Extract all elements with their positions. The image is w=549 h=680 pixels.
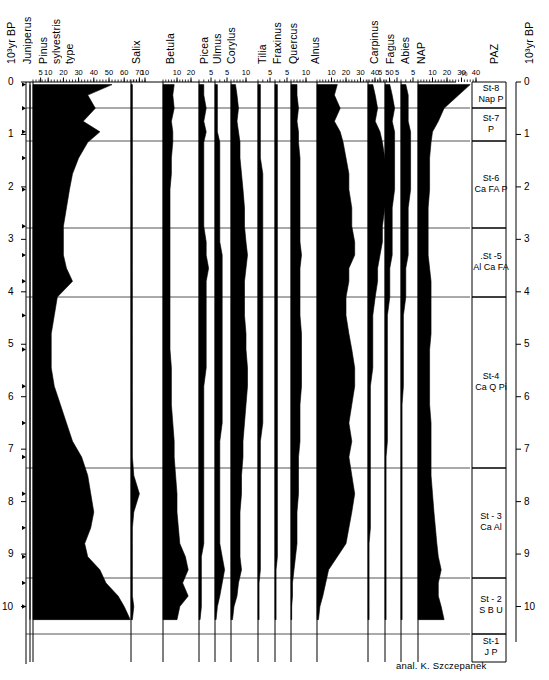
paz-zone-taxa: P bbox=[453, 124, 529, 135]
paz-zone-st7: St-7P bbox=[453, 113, 529, 135]
curve-betula bbox=[163, 85, 188, 620]
depth-tick-right-4: 4 bbox=[524, 287, 530, 297]
depth-tick-left-10: 10 bbox=[2, 602, 13, 612]
depth-tick-left-2: 2 bbox=[8, 182, 14, 192]
depth-tick-left-5: 5 bbox=[8, 339, 14, 349]
scale-tick-pinus-sylvestris-type-30: 30 bbox=[72, 69, 86, 77]
depth-tick-left-8: 8 bbox=[8, 497, 14, 507]
depth-tick-left-4: 4 bbox=[8, 287, 14, 297]
paz-zone-taxa: Ca Al bbox=[453, 522, 529, 533]
depth-tick-right-5: 5 bbox=[524, 339, 530, 349]
curve-nap bbox=[418, 85, 470, 620]
scale-tick-betula-10: 10 bbox=[170, 69, 184, 77]
curve-pinus-sylvestris-type bbox=[33, 85, 130, 620]
paz-zone-st6: St-6Ca FA P bbox=[453, 173, 529, 195]
paz-zone-taxa: J P bbox=[453, 647, 529, 658]
paz-zone-code: St-4 bbox=[453, 371, 529, 382]
depth-tick-right-7: 7 bbox=[524, 444, 530, 454]
scale-tick-corylus-10: 10 bbox=[239, 69, 253, 77]
paz-zone-taxa: S B U bbox=[453, 605, 529, 616]
scale-tick-fraxinus-5: 5 bbox=[280, 69, 294, 77]
paz-zone-taxa: Ca Q Pi bbox=[453, 382, 529, 393]
scale-tick-nap-20: 20 bbox=[440, 69, 454, 77]
paz-zone-code: .St -5 bbox=[453, 251, 529, 262]
paz-zone-st8: St-8Nap P bbox=[453, 83, 529, 105]
curve-salix bbox=[131, 85, 139, 620]
curve-fagus bbox=[385, 85, 395, 620]
scale-tick-abies-5: 5 bbox=[406, 69, 420, 77]
scale-tick-pinus-sylvestris-type-50: 50 bbox=[102, 69, 116, 77]
scale-tick-pinus-sylvestris-type-20: 20 bbox=[56, 69, 70, 77]
paz-zone-code: St - 2 bbox=[453, 594, 529, 605]
paz-zone-taxa: Ca FA P bbox=[453, 184, 529, 195]
depth-tick-right-9: 9 bbox=[524, 549, 530, 559]
depth-tick-right-3: 3 bbox=[524, 234, 530, 244]
paz-zone-st3: St - 3Ca Al bbox=[453, 511, 529, 533]
depth-tick-right-8: 8 bbox=[524, 497, 530, 507]
scale-tick-picea-5: 5 bbox=[204, 69, 218, 77]
percent-symbol: % bbox=[457, 70, 471, 78]
paz-zone-code: St-6 bbox=[453, 173, 529, 184]
curve-picea bbox=[199, 85, 209, 620]
paz-zone-taxa: Nap P bbox=[453, 94, 529, 105]
depth-tick-left-6: 6 bbox=[8, 392, 14, 402]
scale-tick-nap-10: 10 bbox=[426, 69, 440, 77]
depth-tick-left-1: 1 bbox=[8, 129, 14, 139]
depth-tick-left-7: 7 bbox=[8, 444, 14, 454]
curve-abies bbox=[401, 85, 411, 620]
scale-tick-ulmus-5: 5 bbox=[220, 69, 234, 77]
scale-tick-alnus-20: 20 bbox=[339, 69, 353, 77]
depth-tick-right-6: 6 bbox=[524, 392, 530, 402]
pollen-diagram-figure: 10³yr BP Juniperus Pinus sylvestris type… bbox=[0, 0, 549, 680]
paz-zone-st4: St-4Ca Q Pi bbox=[453, 371, 529, 393]
depth-tick-left-3: 3 bbox=[8, 234, 14, 244]
scale-tick-nap-40: 40 bbox=[469, 69, 483, 77]
depth-tick-left-0: 0 bbox=[8, 77, 14, 87]
paz-zone-st2: St - 2S B U bbox=[453, 594, 529, 616]
curve-quercus bbox=[291, 85, 302, 620]
scale-tick-betula-20: 20 bbox=[184, 69, 198, 77]
scale-tick-carpinus-5: 5 bbox=[373, 69, 387, 77]
scale-tick-tilia-5: 5 bbox=[263, 69, 277, 77]
curve-corylus bbox=[231, 85, 248, 620]
paz-zone-code: St - 3 bbox=[453, 511, 529, 522]
curve-tilia bbox=[258, 85, 263, 620]
scale-tick-fagus-5: 5 bbox=[390, 69, 404, 77]
paz-zone-code: St-1 bbox=[453, 636, 529, 647]
scale-tick-pinus-sylvestris-type-60: 60 bbox=[117, 69, 131, 77]
paz-zone-code: St-8 bbox=[453, 83, 529, 94]
scale-tick-alnus-10: 10 bbox=[325, 69, 339, 77]
scale-tick-pinus-sylvestris-type-40: 40 bbox=[87, 69, 101, 77]
scale-tick-quercus-10: 10 bbox=[299, 69, 313, 77]
paz-zone-code: St-7 bbox=[453, 113, 529, 124]
depth-tick-left-9: 9 bbox=[8, 549, 14, 559]
paz-zone-st5: .St -5Al Ca FA bbox=[453, 251, 529, 273]
scale-tick-salix-10: 10 bbox=[138, 69, 152, 77]
paz-zone-taxa: Al Ca FA bbox=[453, 262, 529, 273]
paz-zone-st1: St-1J P bbox=[453, 636, 529, 658]
curve-alnus bbox=[317, 85, 355, 620]
curve-carpinus bbox=[368, 85, 387, 620]
curve-ulmus bbox=[215, 85, 225, 620]
scale-tick-pinus-sylvestris-type-10: 10 bbox=[41, 69, 55, 77]
scale-tick-alnus-30: 30 bbox=[354, 69, 368, 77]
analyst-credit: anal. K. Szczepanek bbox=[396, 660, 486, 671]
